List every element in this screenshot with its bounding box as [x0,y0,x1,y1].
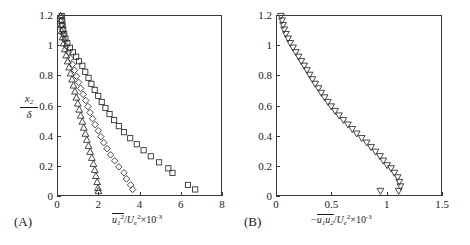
data-point-square [148,154,153,159]
data-point-square [86,75,91,80]
xa-factor-exp: -3 [156,213,162,221]
data-point-triangle-down [336,113,343,119]
data-point-diamond [104,145,111,152]
panel-a: 00.20.40.60.811.2 02468 x2 δ u12/Ue2×10-… [0,0,235,245]
data-point-square [193,187,198,192]
data-point-diamond [83,97,90,104]
x-tick-mark [57,192,58,196]
y-tick-mark [57,166,61,167]
data-point-diamond [121,170,128,177]
x-tick-label: 0.5 [316,199,346,210]
data-point-diamond [80,91,87,98]
data-point-diamond [75,79,82,86]
y-tick-mark [57,136,61,137]
data-point-triangle-down [340,117,347,123]
x-tick-mark [387,192,388,196]
data-point-triangle-up [90,160,97,166]
y-tick-label: 0.4 [248,131,272,142]
x-tick-mark [331,192,332,196]
data-point-triangle-down [394,175,401,181]
data-point-diamond [116,164,123,171]
y-tick-mark [276,45,280,46]
data-point-triangle-down [282,31,289,37]
x-tick-label: 8 [207,199,237,210]
data-point-triangle-up [87,148,94,154]
x-tick-mark [98,192,99,196]
data-point-diamond [77,85,84,92]
y-tick-mark [276,106,280,107]
data-point-triangle-up [82,130,89,136]
x-tick-mark [222,192,223,196]
data-point-triangle-down [363,140,370,146]
x-tick-mark [140,192,141,196]
data-point-triangle-down [397,184,404,190]
data-point-triangle-down [344,122,351,128]
data-point-square [103,105,108,110]
plot-frame-a [57,15,222,196]
y-tick-label: 0.2 [29,161,53,172]
y-tick-mark [276,136,280,137]
data-point-diamond [95,127,102,134]
x-axis-title-b: −u1u2/Ue2×10-3 [311,213,372,227]
x-tick-label: 4 [125,199,155,210]
xb-factor-exp: -3 [366,213,372,221]
data-point-triangle-up [94,179,101,185]
x-axis-title-a: u12/Ue2×10-3 [112,213,162,227]
data-point-diamond [101,139,108,146]
y-tick-mark [57,15,61,16]
x-tick-label: 0 [42,199,72,210]
panel-tag-b: (B) [244,214,261,230]
data-point-square [185,182,190,187]
data-point-diamond [111,158,118,165]
data-point-diamond [87,109,94,116]
data-point-square [141,148,146,153]
data-point-triangle-down [349,126,356,132]
data-point-triangle-up [74,100,81,106]
y-tick-mark [57,45,61,46]
y-axis-numerator-sub: 2 [30,98,34,106]
data-point-diamond [92,121,99,128]
x-tick-mark [442,192,443,196]
data-point-diamond [98,133,105,140]
data-point-square [134,142,139,147]
data-point-triangle-down [395,188,402,194]
data-point-diamond [127,182,134,189]
xa-factor: ×10 [141,214,157,225]
data-point-square [112,117,117,122]
data-point-square [92,87,97,92]
data-point-square [83,69,88,74]
data-point-triangle-down [377,188,384,194]
y-tick-label: 0.8 [29,70,53,81]
y-tick-label: 0.8 [248,70,272,81]
xb-U: U [336,214,343,225]
data-point-triangle-up [79,118,86,124]
data-point-triangle-up [76,106,83,112]
y-tick-label: 1 [248,40,272,51]
data-point-triangle-down [285,36,292,42]
data-point-square [96,93,101,98]
data-point-triangle-up [67,70,74,76]
data-point-square [128,136,133,141]
data-point-triangle-up [77,112,84,118]
x-tick-mark [181,192,182,196]
y-axis-title-a: x2 δ [18,93,40,121]
x-tick-label: 1 [372,199,402,210]
plot-frame-b [276,15,442,196]
data-point-triangle-up [73,94,80,100]
data-point-triangle-up [80,124,87,130]
y-tick-mark [57,196,61,197]
data-point-triangle-up [88,154,95,160]
x-tick-label: 1.5 [427,199,457,210]
data-point-triangle-up [93,173,100,179]
data-point-triangle-down [380,158,387,164]
data-point-triangle-down [372,149,379,155]
data-point-triangle-up [83,136,90,142]
scatter-markers-b [277,16,443,197]
x-tick-label: 6 [166,199,196,210]
y-tick-label: 1.2 [29,10,53,21]
xb-factor: ×10 [350,214,366,225]
panel-b: 00.20.40.60.811.2 00.511.5 −u1u2/Ue2×10-… [235,0,470,245]
panel-tag-a: (A) [14,214,32,230]
y-tick-mark [57,106,61,107]
data-point-diamond [85,103,92,110]
